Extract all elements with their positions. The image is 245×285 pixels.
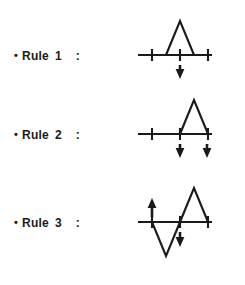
- bullet-icon: •: [14, 48, 18, 62]
- rule-diagram: [130, 89, 240, 164]
- rule-diagram: [130, 10, 240, 85]
- rule-number-text: 3: [55, 216, 62, 230]
- waveform-svg: [130, 89, 240, 164]
- rule-name-text: Rule: [22, 128, 49, 142]
- waveform-svg: [130, 177, 240, 282]
- bullet-icon: •: [14, 127, 18, 141]
- bullet-icon: •: [14, 215, 18, 229]
- rule-separator-text: :: [76, 128, 80, 142]
- rule-number-text: 1: [55, 49, 62, 63]
- rule-separator-text: :: [76, 216, 80, 230]
- waveform-svg: [130, 10, 240, 85]
- rules-figure: •Rule1: •Rule2:: [0, 0, 245, 285]
- rule-diagram: [130, 177, 240, 282]
- rule-label: •Rule3:: [14, 215, 80, 230]
- up-arrow-marker: [148, 198, 157, 217]
- waveform-path: [180, 100, 208, 134]
- down-arrow-marker: [176, 144, 185, 158]
- rule-number-text: 2: [55, 128, 62, 142]
- rule-name-text: Rule: [22, 216, 49, 230]
- rule-label: •Rule1:: [14, 48, 80, 63]
- down-arrow-marker: [176, 232, 185, 247]
- down-arrow-marker: [176, 65, 185, 79]
- rule-separator-text: :: [76, 49, 80, 63]
- down-arrow-marker: [203, 144, 212, 158]
- rule-label: •Rule2:: [14, 127, 80, 142]
- rule-name-text: Rule: [22, 49, 49, 63]
